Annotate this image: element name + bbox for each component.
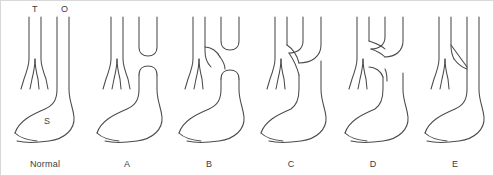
caption-e: E	[425, 159, 485, 169]
caption-a: A	[97, 159, 157, 169]
panels-canvas: S	[1, 1, 494, 176]
caption-d: D	[343, 159, 403, 169]
tracheo-oesophageal-fistula-diagram: T O S	[0, 0, 494, 176]
panel-normal: S	[15, 17, 74, 143]
stomach-label-normal: S	[44, 116, 50, 126]
panel-b	[179, 17, 244, 143]
caption-normal: Normal	[15, 159, 75, 169]
caption-c: C	[261, 159, 321, 169]
panel-a	[97, 17, 162, 143]
panel-d	[345, 17, 408, 143]
panel-e	[425, 17, 484, 143]
panel-c	[261, 17, 326, 143]
caption-b: B	[179, 159, 239, 169]
